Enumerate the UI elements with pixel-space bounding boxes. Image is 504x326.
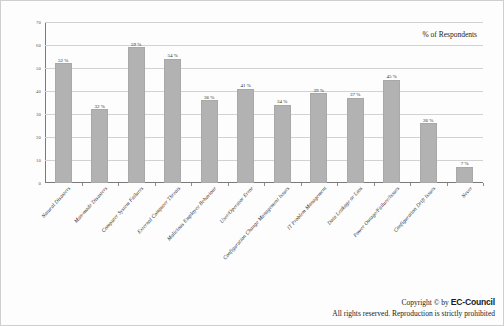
footer: Copyright © by EC-Council All rights res… bbox=[332, 297, 495, 319]
bar: 34 % bbox=[274, 105, 291, 183]
ec-council-brand: EC-Council bbox=[451, 297, 495, 307]
x-axis-category-label: Natural Disasters bbox=[40, 185, 71, 219]
bar-value-label: 45 % bbox=[387, 74, 397, 79]
x-axis-category-labels: Natural DisastersMan-made DisastersCompu… bbox=[45, 185, 483, 280]
bar-value-label: 7 % bbox=[461, 161, 469, 166]
bar: 41 % bbox=[237, 89, 254, 183]
y-tick-label: 10 bbox=[36, 158, 41, 163]
rights-reserved-line: All rights reserved. Reproduction is str… bbox=[332, 309, 495, 319]
bar: 54 % bbox=[164, 59, 181, 183]
respondents-annotation: % of Respondents bbox=[422, 30, 477, 39]
bar-slot: 45 % bbox=[374, 22, 411, 183]
bar-slot: 26 % bbox=[410, 22, 447, 183]
bar: 45 % bbox=[383, 80, 400, 184]
copyright-line: Copyright © by EC-Council bbox=[332, 297, 495, 309]
x-axis-category-label: Configuration Drift Issues bbox=[392, 185, 436, 233]
bar-slot: 36 % bbox=[191, 22, 228, 183]
bar: 7 % bbox=[456, 167, 473, 183]
y-tick-label: 30 bbox=[36, 112, 41, 117]
bar-value-label: 52 % bbox=[58, 58, 68, 63]
x-axis-category-label: Configuration Change Management Issues bbox=[222, 185, 291, 261]
slide-canvas: 010203040506070 52 %32 %59 %54 %36 %41 %… bbox=[0, 0, 504, 326]
x-axis-category-label: Data Leakage or Loss bbox=[326, 185, 364, 226]
bar-value-label: 34 % bbox=[277, 99, 287, 104]
y-tick-label: 70 bbox=[36, 20, 41, 25]
bar: 32 % bbox=[91, 109, 108, 183]
y-tick-label: 50 bbox=[36, 66, 41, 71]
bar-value-label: 59 % bbox=[131, 42, 141, 47]
bar-slot: 54 % bbox=[155, 22, 192, 183]
bar-value-label: 32 % bbox=[95, 104, 105, 109]
bar-slot: 59 % bbox=[118, 22, 155, 183]
y-tick-label: 40 bbox=[36, 89, 41, 94]
bar-slot: 32 % bbox=[82, 22, 119, 183]
bar-slot: 34 % bbox=[264, 22, 301, 183]
x-axis-category-label: Never bbox=[460, 185, 473, 199]
x-axis-category-label: Man-made Disasters bbox=[72, 185, 108, 224]
bar-slot: 41 % bbox=[228, 22, 265, 183]
x-axis-category-label: IT Problem Management bbox=[285, 185, 327, 231]
x-axis-category-label: User/Operator Error bbox=[218, 185, 254, 224]
bar: 36 % bbox=[201, 100, 218, 183]
copyright-prefix: Copyright © by bbox=[401, 298, 450, 307]
bar-chart: 010203040506070 52 %32 %59 %54 %36 %41 %… bbox=[45, 22, 483, 183]
bar: 37 % bbox=[347, 98, 364, 183]
bar: 59 % bbox=[128, 47, 145, 183]
y-tick-label: 60 bbox=[36, 43, 41, 48]
x-tick bbox=[483, 183, 484, 186]
bar-slot: 39 % bbox=[301, 22, 338, 183]
bar-value-label: 26 % bbox=[423, 118, 433, 123]
bar-value-label: 39 % bbox=[314, 88, 324, 93]
bar-value-label: 37 % bbox=[350, 92, 360, 97]
y-tick-label: 20 bbox=[36, 135, 41, 140]
bar: 26 % bbox=[420, 123, 437, 183]
bar-value-label: 36 % bbox=[204, 95, 214, 100]
bar: 39 % bbox=[310, 93, 327, 183]
bar-series: 52 %32 %59 %54 %36 %41 %34 %39 %37 %45 %… bbox=[45, 22, 483, 183]
bar-slot: 52 % bbox=[45, 22, 82, 183]
x-axis-category-label: Computer System Failures bbox=[100, 185, 144, 233]
bar: 52 % bbox=[55, 63, 72, 183]
bar-value-label: 54 % bbox=[168, 53, 178, 58]
bar-slot: 37 % bbox=[337, 22, 374, 183]
bar-value-label: 41 % bbox=[241, 83, 251, 88]
y-tick-label: 0 bbox=[39, 181, 42, 186]
bar-slot: 7 % bbox=[447, 22, 484, 183]
